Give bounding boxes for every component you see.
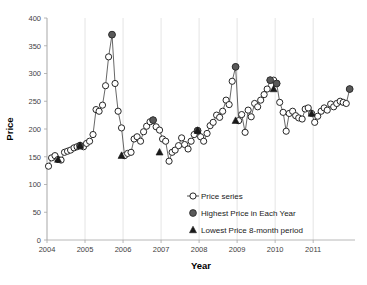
y-axis-tick-label: 150 <box>28 153 41 162</box>
x-axis-tick-label: 2005 <box>77 245 94 254</box>
highest-price-marker <box>346 86 353 93</box>
legend-marker-highest-price <box>190 210 197 217</box>
legend-label: Highest Price in Each Year <box>201 209 296 218</box>
price-point-marker <box>343 100 349 106</box>
highest-price-marker <box>109 31 116 38</box>
legend-marker-price-series <box>190 193 196 199</box>
legend-label: Price series <box>201 192 243 201</box>
highest-price-marker <box>150 117 157 124</box>
price-point-marker <box>156 127 162 133</box>
x-axis-tick-label: 2007 <box>153 245 170 254</box>
price-point-marker <box>102 83 108 89</box>
price-point-marker <box>299 116 305 122</box>
price-point-marker <box>201 138 207 144</box>
legend-label: Lowest Price 8-month period <box>201 226 303 235</box>
y-axis: 050100150200250300350400 <box>28 14 47 245</box>
x-axis-title: Year <box>191 260 211 271</box>
y-axis-tick-label: 200 <box>28 125 41 134</box>
price-point-marker <box>106 54 112 60</box>
price-point-marker <box>185 146 191 152</box>
price-point-marker <box>210 119 216 125</box>
price-point-marker <box>305 105 311 111</box>
price-chart: 0501001502002503003504002004200520062007… <box>0 0 367 285</box>
gridlines <box>47 18 313 240</box>
price-point-marker <box>204 130 210 136</box>
y-axis-tick-label: 300 <box>28 69 41 78</box>
y-axis-tick-label: 0 <box>37 236 41 245</box>
legend-marker-lowest-price <box>190 226 197 233</box>
x-axis-tick-label: 2009 <box>229 245 246 254</box>
price-point-marker <box>283 128 289 134</box>
price-point-marker <box>166 158 172 164</box>
y-axis-tick-label: 250 <box>28 97 41 106</box>
price-point-marker <box>258 97 264 103</box>
y-axis-title: Price <box>4 117 15 140</box>
chart-legend: Price seriesHighest Price in Each YearLo… <box>187 192 303 235</box>
x-axis-tick-label: 2011 <box>305 245 321 254</box>
price-point-marker <box>128 149 134 155</box>
price-point-marker <box>239 111 245 117</box>
price-point-marker <box>217 114 223 120</box>
lowest-price-marker <box>156 149 163 156</box>
price-point-marker <box>179 135 185 141</box>
price-point-marker <box>115 108 121 114</box>
price-point-marker <box>229 78 235 84</box>
price-point-marker <box>280 109 286 115</box>
price-point-marker <box>245 107 251 113</box>
y-axis-tick-label: 350 <box>28 42 41 51</box>
price-point-marker <box>248 114 254 120</box>
highest-price-marker <box>232 63 239 70</box>
price-point-marker <box>96 108 102 114</box>
price-point-marker <box>324 107 330 113</box>
price-point-marker <box>45 163 51 169</box>
x-axis-tick-label: 2004 <box>39 245 56 254</box>
x-axis-tick-label: 2010 <box>267 245 284 254</box>
chart-page: 0501001502002503003504002004200520062007… <box>0 0 367 285</box>
price-point-marker <box>220 108 226 114</box>
price-point-marker <box>277 99 283 105</box>
price-point-marker <box>86 138 92 144</box>
price-point-marker <box>118 125 124 131</box>
price-point-marker <box>255 104 261 110</box>
lowest-price-markers <box>55 85 316 162</box>
price-point-marker <box>112 80 118 86</box>
price-point-marker <box>137 138 143 144</box>
x-axis: 20042005200620072008200920102011 <box>39 240 355 254</box>
price-point-marker <box>264 86 270 92</box>
price-point-marker <box>163 138 169 144</box>
price-point-marker <box>175 143 181 149</box>
price-point-marker <box>99 102 105 108</box>
y-axis-tick-label: 400 <box>28 14 41 23</box>
x-axis-tick-label: 2008 <box>191 245 208 254</box>
highest-price-marker <box>267 77 274 84</box>
price-point-marker <box>242 129 248 135</box>
y-axis-tick-label: 100 <box>28 180 41 189</box>
highest-price-markers <box>77 31 353 149</box>
x-axis-tick-label: 2006 <box>115 245 132 254</box>
y-axis-tick-label: 50 <box>33 208 41 217</box>
price-point-marker <box>90 131 96 137</box>
price-point-marker <box>312 119 318 125</box>
price-point-marker <box>226 101 232 107</box>
price-point-marker <box>188 138 194 144</box>
